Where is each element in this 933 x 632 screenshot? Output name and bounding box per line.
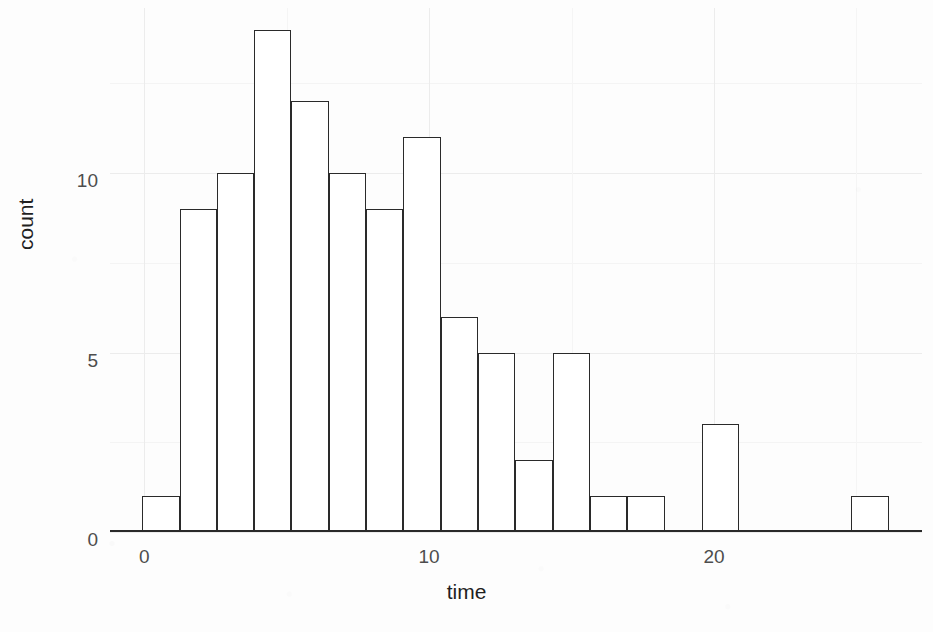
histogram-bar [142, 496, 179, 532]
y-tick-label: 0 [87, 529, 98, 551]
histogram-bar [403, 137, 440, 532]
histogram-figure: 0510 01020 time count [0, 0, 933, 632]
x-axis-tick-labels: 01020 [110, 546, 922, 572]
histogram-bar [217, 173, 254, 532]
histogram-bar [590, 496, 627, 532]
y-axis-tick-labels: 0510 [40, 8, 98, 532]
x-tick-label: 10 [419, 546, 440, 568]
x-axis-title: time [0, 580, 933, 604]
histogram-bar [702, 424, 739, 532]
histogram-bar [180, 209, 217, 532]
plot-panel [110, 8, 922, 532]
x-axis-baseline [110, 530, 922, 532]
histogram-bar [254, 30, 291, 532]
histogram-bar [366, 209, 403, 532]
histogram-bar [478, 353, 515, 532]
histogram-bar [515, 460, 552, 532]
histogram-bar [627, 496, 664, 532]
histogram-bar [291, 101, 328, 532]
x-tick-label: 0 [139, 546, 150, 568]
histogram-bar [441, 317, 478, 532]
y-tick-label: 5 [87, 350, 98, 372]
histogram-bar [329, 173, 366, 532]
histogram-bar [851, 496, 888, 532]
histogram-bar [553, 353, 590, 532]
x-tick-label: 20 [703, 546, 724, 568]
y-tick-label: 10 [77, 170, 98, 192]
y-axis-title: count [14, 199, 38, 250]
gridline-major-horizontal [110, 532, 922, 533]
bars-layer [110, 8, 922, 532]
